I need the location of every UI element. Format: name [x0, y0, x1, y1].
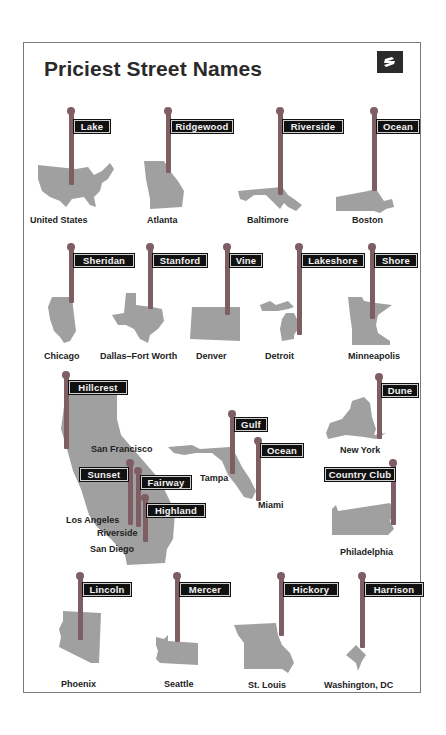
city-label: Detroit: [265, 351, 294, 361]
city-label: San Diego: [90, 544, 134, 554]
city-label: Phoenix: [61, 679, 96, 689]
map-pennsylvania: [330, 501, 396, 537]
city-label: San Francisco: [91, 444, 153, 454]
street-sign-stanford: Stanford: [152, 253, 208, 268]
street-sign-gulf: Gulf: [234, 417, 268, 432]
map-washington-dc: [346, 645, 368, 671]
street-sign-highland: Highland: [146, 503, 206, 518]
street-sign-riverside: Riverside: [282, 119, 344, 134]
street-sign-ridgewood: Ridgewood: [170, 119, 234, 134]
street-sign-sheridan: Sheridan: [73, 253, 135, 268]
city-label: Atlanta: [147, 215, 178, 225]
page-title: Priciest Street Names: [44, 57, 262, 81]
city-label: Miami: [258, 500, 284, 510]
city-label: Los Angeles: [66, 515, 119, 525]
street-sign-country-club: Country Club: [324, 467, 396, 482]
map-colorado: [190, 305, 242, 343]
street-sign-lake: Lake: [73, 119, 111, 134]
map-united-states: [36, 161, 116, 211]
zillow-z-logo-icon: [382, 55, 398, 69]
map-maryland: [236, 185, 304, 213]
city-label: Baltimore: [247, 215, 289, 225]
street-sign-vine: Vine: [229, 253, 263, 268]
street-sign-shore: Shore: [374, 253, 418, 268]
map-texas: [110, 291, 166, 345]
city-label: Denver: [196, 351, 227, 361]
street-sign-lincoln: Lincoln: [82, 582, 132, 597]
map-missouri: [232, 623, 298, 675]
street-sign-hickory: Hickory: [283, 582, 339, 597]
city-label: St. Louis: [248, 680, 286, 690]
street-sign-dune: Dune: [381, 383, 419, 398]
street-sign-hillcrest: Hillcrest: [68, 380, 128, 395]
city-label: Boston: [352, 215, 383, 225]
street-sign-sunset: Sunset: [79, 467, 129, 482]
city-label: Riverside: [97, 528, 138, 538]
city-label: Philadelphia: [340, 547, 393, 557]
city-label: New York: [340, 445, 380, 455]
city-label: Minneapolis: [348, 351, 400, 361]
map-florida: [166, 439, 262, 501]
city-label: Tampa: [200, 473, 228, 483]
city-label: Dallas–Fort Worth: [100, 351, 177, 361]
map-massachusetts: [334, 187, 396, 215]
infographic-card: Priciest Street Names Lake United States…: [23, 42, 421, 693]
street-sign-lakeshore: Lakeshore: [301, 253, 365, 268]
city-label: Chicago: [44, 351, 80, 361]
city-label: Seattle: [164, 679, 194, 689]
city-label: United States: [30, 215, 88, 225]
street-sign-ocean-miami: Ocean: [260, 443, 304, 458]
city-label: Washington, DC: [324, 680, 393, 690]
street-sign-ocean: Ocean: [376, 119, 420, 134]
street-sign-mercer: Mercer: [179, 582, 231, 597]
zillow-logo: [377, 51, 403, 73]
street-sign-harrison: Harrison: [364, 582, 424, 597]
